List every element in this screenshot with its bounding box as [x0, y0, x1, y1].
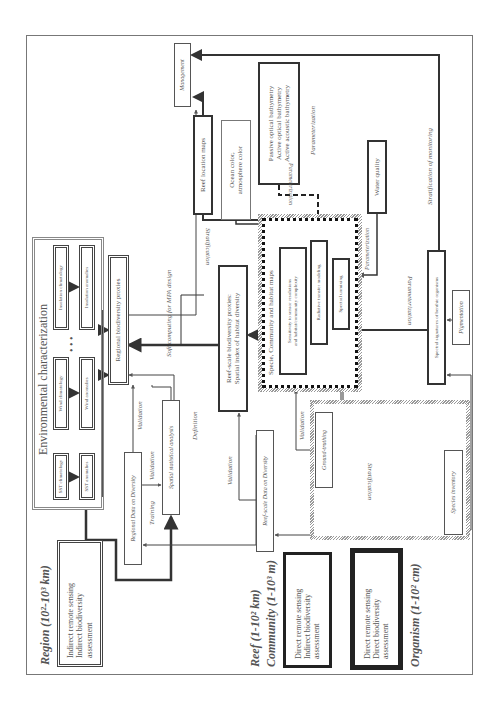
legend-line: Indirect biodiversity: [75, 593, 84, 658]
habitat-maps-label: Specie, Community and habitat maps: [267, 270, 275, 375]
sensitivity-line2: and habitat/community complexity: [293, 276, 299, 346]
label-stratification-monitoring: Stratification of monitoring: [426, 128, 434, 205]
reef-scale-proxies-box: Reef-scale biodiversity proxies: Spatial…: [218, 265, 248, 412]
legend-direct-direct: Direct remote sensing Direct biodiversit…: [350, 548, 403, 670]
label-validation-spatial: Validation: [148, 451, 156, 480]
pigmentation-box: Pigmentation: [452, 290, 470, 345]
label-soft-computing: Soft computing for MPA design: [165, 270, 173, 357]
reef-scale-data-box: Reef-scale Data on Diversity: [256, 430, 274, 552]
label-definition: Definition: [191, 412, 199, 440]
spatial-statistical-analysis-box: Spatial statistical analysis: [162, 400, 180, 515]
wind-anomalies-box: Wind anomalies: [79, 357, 95, 430]
ellipsis: • • •: [66, 336, 77, 352]
sst-climatology-box: SST climatology: [53, 453, 69, 500]
label-validation-regional: Validation: [136, 401, 144, 430]
reef-location-maps-box: Reef location maps: [193, 115, 213, 215]
bathymetry-line1: Passive optical bathymetry: [267, 86, 275, 161]
spectral-signatures-box: Spectral signatures of benthic organisms: [427, 250, 446, 385]
sensitivity-box: Sensitivity to sensor resolutions and ha…: [279, 247, 307, 375]
water-quality-box: Water quality: [367, 140, 387, 214]
legend-line: assessment: [85, 622, 94, 658]
sst-anomalies-box: SST anomalies: [79, 453, 95, 500]
label-stratification-reef: Stratification: [204, 228, 212, 265]
legend-indirect-indirect: Indirect remote sensing Indirect biodive…: [57, 540, 103, 667]
label-parameterization-spectral: Parameterization: [406, 276, 414, 325]
legend-line: Indirect remote sensing: [66, 583, 75, 658]
legend-line: Direct remote sensing: [363, 589, 372, 659]
spectral-unmixing-box: Spectral unmixing: [332, 258, 350, 330]
diagram-stage: Environmental characterization SST clima…: [26, 35, 473, 675]
scale-community-label: Community (1-10³ m): [264, 560, 278, 667]
regional-biodiversity-proxies-box: Regional biodiversity proxies: [108, 255, 129, 385]
scale-reef-label: Reef (1-10² km): [248, 589, 262, 667]
ocean-color-line1: Ocean color,: [228, 152, 236, 187]
legend-line: Indirect biodiversity: [303, 594, 312, 659]
management-box: Management: [174, 43, 191, 107]
label-training: Training: [148, 501, 156, 525]
reef-proxies-line1: Reef-scale biodiversity proxies:: [225, 294, 233, 383]
label-parameterization-bathymetry: Parameterization: [309, 106, 317, 155]
bathymetry-line2: Active optical bathymetry: [275, 87, 283, 160]
label-validation-habitat: Validation: [298, 411, 306, 440]
scale-region-label: Region (10²-10³ km): [38, 565, 52, 665]
ground-truthing-box: Ground-truthing: [315, 412, 333, 488]
legend-line: assessment: [381, 623, 390, 659]
legend-line: Direct remote sensing: [294, 589, 303, 659]
species-inventory-box: Species inventory: [444, 450, 463, 535]
insolation-anomalies-box: Insolation anomalies: [79, 245, 95, 330]
insolation-climatology-box: Insolation climatology: [53, 245, 69, 330]
legend-line: assessment: [312, 623, 321, 659]
legend-direct-indirect: Direct remote sensing Indirect biodivers…: [283, 552, 332, 668]
bathymetry-line3: Active acoustic bathymetry: [283, 85, 291, 162]
radiative-transfer-box: Radiative transfer modeling: [310, 240, 328, 345]
wind-climatology-box: Wind climatology: [53, 357, 69, 430]
label-parameterization-water: Parameterization: [364, 228, 370, 270]
reef-proxies-line2: Spatial index of habitat diversity: [233, 293, 241, 384]
ocean-color-line2: atmosphere color: [236, 146, 244, 194]
ocean-color-box: Ocean color, atmosphere color: [221, 120, 251, 220]
environmental-title: Environmental characterization: [36, 304, 51, 455]
label-parameterization-ocean: Parameterization: [288, 163, 294, 205]
label-validation-reef: Validation: [226, 456, 234, 485]
regional-data-box: Regional Data on Diversity: [124, 452, 142, 565]
legend-line: Direct biodiversity: [372, 599, 381, 659]
label-stratification-organism: Stratification: [366, 463, 374, 500]
scale-organism-label: Organism (1-10² cm): [408, 563, 422, 667]
